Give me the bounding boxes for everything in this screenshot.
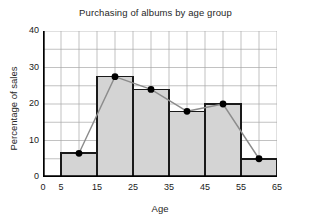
y-tick-label: 10: [5, 135, 39, 145]
y-tick-label: 0: [5, 171, 39, 181]
chart-title: Purchasing of albums by age group: [0, 7, 311, 18]
chart-plot-svg: [43, 31, 277, 177]
x-tick-label: 5: [48, 182, 74, 192]
x-axis-label: Age: [43, 203, 277, 214]
x-tick-label: 55: [228, 182, 254, 192]
histogram-bars: [61, 77, 277, 177]
x-tick-label: 65: [264, 182, 290, 192]
x-tick-label: 35: [156, 182, 182, 192]
plot-area: [43, 31, 277, 177]
x-tick-label: 15: [84, 182, 110, 192]
y-tick-label: 30: [5, 62, 39, 72]
y-tick-label: 20: [5, 98, 39, 108]
x-tick-label: 25: [120, 182, 146, 192]
y-tick-label: 40: [5, 25, 39, 35]
chart-figure: Purchasing of albums by age group Percen…: [0, 0, 311, 224]
x-tick-label: 45: [192, 182, 218, 192]
